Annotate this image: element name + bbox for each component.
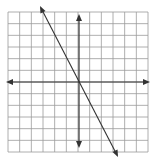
y-axis-up-arrow-icon (76, 14, 82, 21)
x-axis-right-arrow-icon (143, 79, 150, 85)
y-axis-down-arrow-icon (76, 141, 82, 148)
x-axis-left-arrow-icon (6, 79, 13, 85)
coordinate-plane (0, 0, 159, 160)
